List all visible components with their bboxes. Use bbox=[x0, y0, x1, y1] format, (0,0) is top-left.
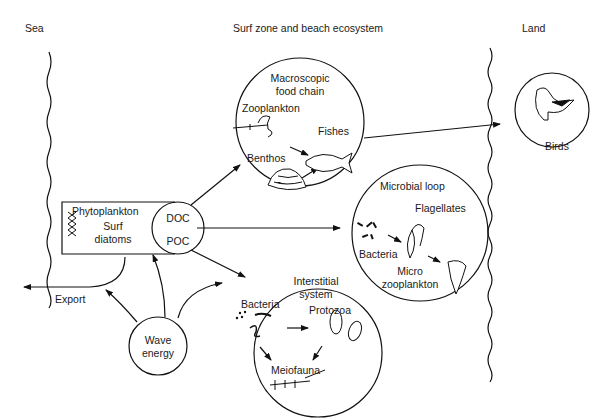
surf-label: Surf bbox=[103, 220, 122, 232]
zooplankton-label: Zooplankton bbox=[242, 102, 300, 114]
fish-icon bbox=[306, 153, 352, 173]
energy-label: energy bbox=[142, 347, 174, 359]
protozoa-label: Protozoa bbox=[309, 304, 351, 316]
phytoplankton-label: Phytoplankton bbox=[72, 205, 139, 217]
microbial-bacteria-icon bbox=[357, 222, 377, 240]
land-shoreline bbox=[488, 48, 492, 382]
surf-zone-label: Surf zone and beach ecosystem bbox=[233, 22, 383, 34]
interstitial-bacteria-label: Bacteria bbox=[241, 298, 280, 310]
meiofauna-label: Meiofauna bbox=[271, 364, 320, 376]
micro-label: Micro bbox=[397, 265, 423, 277]
wave-energy-circle bbox=[129, 317, 187, 375]
system-label: system bbox=[299, 288, 332, 300]
zooplankton-icon bbox=[233, 116, 272, 137]
interstitial-label: Interstitial bbox=[294, 275, 339, 287]
macroscopic-label: Macroscopic bbox=[271, 72, 330, 84]
bird-icon bbox=[536, 88, 574, 120]
microbial-bacteria-label: Bacteria bbox=[359, 248, 398, 260]
sea-shoreline bbox=[47, 52, 51, 308]
micro-zooplankton-icon bbox=[448, 261, 466, 294]
export-label: Export bbox=[55, 293, 85, 305]
interstitial-bacteria-icon bbox=[236, 311, 271, 337]
benthos-label: Benthos bbox=[247, 152, 286, 164]
birds-label: Birds bbox=[545, 140, 569, 152]
flagellate-icon bbox=[407, 224, 424, 258]
flagellates-label: Flagellates bbox=[415, 202, 466, 214]
microbial-loop-label: Microbial loop bbox=[380, 180, 445, 192]
zooplankton-micro-label: zooplankton bbox=[382, 278, 439, 290]
land-label: Land bbox=[522, 22, 545, 34]
poc-label: POC bbox=[167, 235, 190, 247]
sea-label: Sea bbox=[25, 22, 44, 34]
benthos-shell-icon bbox=[268, 169, 306, 190]
food-chain-label: food chain bbox=[276, 85, 324, 97]
doc-label: DOC bbox=[166, 212, 189, 224]
fishes-label: Fishes bbox=[318, 125, 349, 137]
diatoms-label: diatoms bbox=[95, 233, 132, 245]
wave-label: Wave bbox=[145, 334, 171, 346]
